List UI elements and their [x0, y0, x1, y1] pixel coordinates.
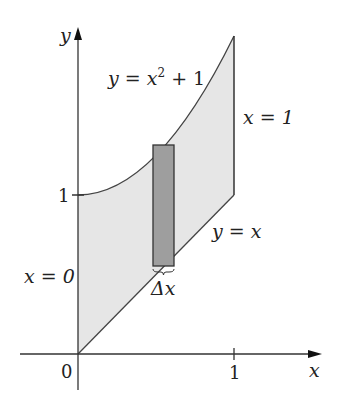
x-tick-1-label: 1 [229, 362, 240, 383]
left-bound-label: x = 0 [24, 265, 75, 287]
lower-line-label: y = x [211, 220, 262, 242]
x-axis-label: x [309, 359, 320, 381]
x-axis-arrow-icon [308, 350, 322, 358]
delta-x-label: Δx [150, 277, 176, 299]
y-axis-arrow-icon [74, 27, 82, 40]
right-bound-label: x = 1 [243, 106, 294, 128]
origin-label: 0 [61, 361, 72, 382]
region-diagram: y x 0 1 1 y = x2 + 1 x = 1 y = x x = 0 Δ… [0, 0, 346, 405]
approximating-strip [153, 145, 174, 266]
upper-curve-label: y = x2 + 1 [107, 66, 205, 89]
y-axis-label: y [59, 24, 71, 46]
y-tick-1-label: 1 [58, 185, 69, 206]
